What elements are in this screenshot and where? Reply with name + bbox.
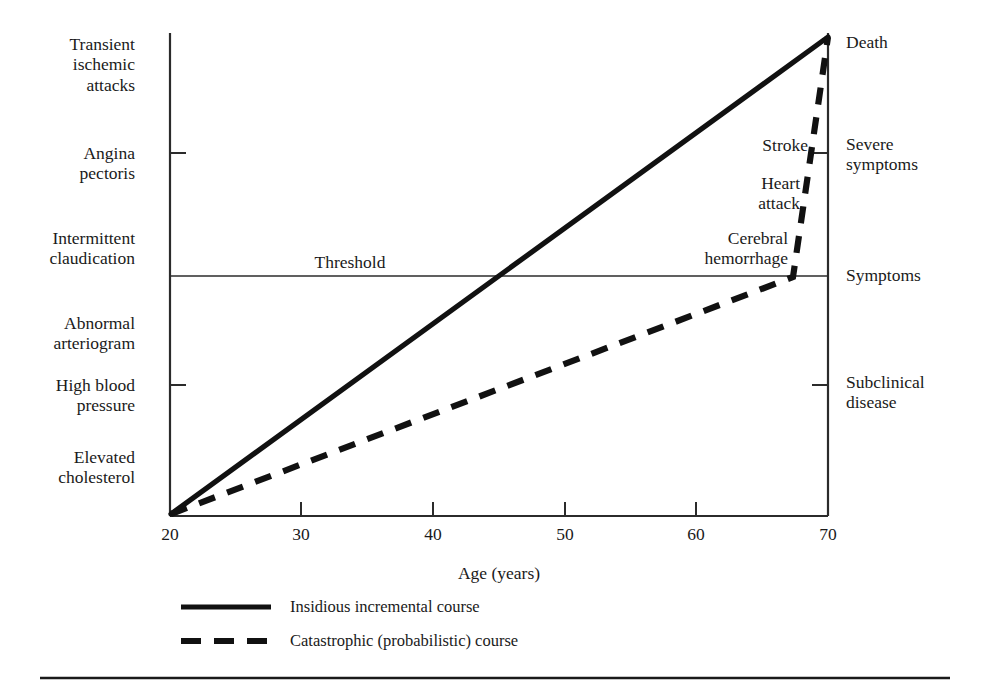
y-right-label-subclinical-disease: Subclinical disease xyxy=(846,372,983,413)
legend-label-insidious-incremental-course: Insidious incremental course xyxy=(290,597,480,617)
threshold-label: Threshold xyxy=(275,252,425,273)
y-left-label-elevated-cholesterol: Elevated cholesterol xyxy=(0,447,135,488)
chart-canvas xyxy=(0,0,983,695)
x-tick-label-40: 40 xyxy=(413,524,453,545)
y-right-label-death: Death xyxy=(846,32,983,52)
x-axis-title: Age (years) xyxy=(424,563,574,584)
y-left-label-intermittent-claudication: Intermittent claudication xyxy=(0,228,135,269)
y-left-label-transient-ischemic-attacks: Transient ischemic attacks xyxy=(0,34,135,95)
annotation-heart-attack: Heart attack xyxy=(640,173,800,214)
x-tick-label-30: 30 xyxy=(281,524,321,545)
x-tick-label-20: 20 xyxy=(150,524,190,545)
legend-label-catastrophic-probabilistic-course: Catastrophic (probabilistic) course xyxy=(290,631,518,651)
y-left-label-abnormal-arteriogram: Abnormal arteriogram xyxy=(0,313,135,354)
annotation-cerebral-hemorrhage: Cerebral hemorrhage xyxy=(610,228,788,269)
y-right-label-severe-symptoms: Severe symptoms xyxy=(846,134,983,175)
figure-container: Transient ischemic attacks Angina pector… xyxy=(0,0,983,695)
annotation-stroke: Stroke xyxy=(648,135,808,155)
x-tick-label-50: 50 xyxy=(545,524,585,545)
x-tick-label-60: 60 xyxy=(676,524,716,545)
y-right-label-symptoms: Symptoms xyxy=(846,265,983,285)
x-tick-label-70: 70 xyxy=(808,524,848,545)
y-left-label-high-blood-pressure: High blood pressure xyxy=(0,375,135,416)
y-left-label-angina-pectoris: Angina pectoris xyxy=(0,143,135,184)
